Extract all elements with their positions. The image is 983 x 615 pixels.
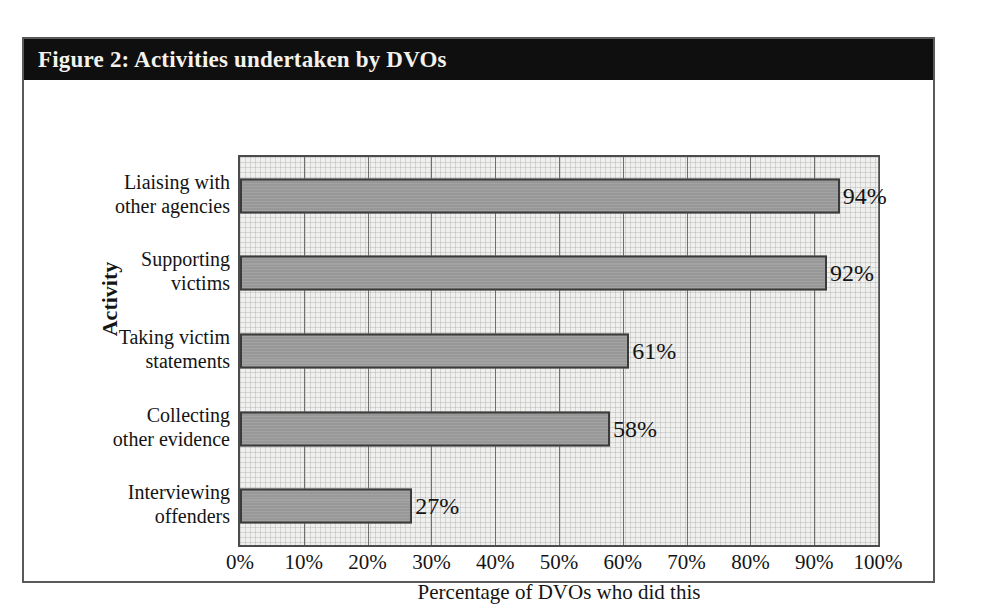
bar[interactable] bbox=[240, 489, 412, 524]
category-label-line: Interviewing bbox=[30, 480, 230, 504]
bar-slot: 92% bbox=[240, 235, 878, 313]
x-tick-label: 20% bbox=[348, 550, 387, 575]
bar-slot: 61% bbox=[240, 312, 878, 390]
x-tick-label: 100% bbox=[854, 550, 903, 575]
bar-value-label: 27% bbox=[412, 493, 459, 520]
figure-title-bar: Figure 2: Activities undertaken by DVOs bbox=[24, 39, 933, 80]
category-label: Taking victimstatements bbox=[30, 325, 230, 373]
x-tick-label: 0% bbox=[226, 550, 254, 575]
bar-value-label: 58% bbox=[610, 415, 657, 442]
figure-title: Figure 2: Activities undertaken by DVOs bbox=[38, 47, 447, 73]
gridline-100% bbox=[878, 157, 879, 545]
bar-slot: 27% bbox=[240, 467, 878, 545]
chart-body: Activity Liaising withother agenciesSupp… bbox=[24, 80, 933, 585]
x-tick-label: 70% bbox=[667, 550, 706, 575]
bar[interactable] bbox=[240, 178, 840, 213]
category-label-column: Liaising withother agenciesSupportingvic… bbox=[24, 155, 230, 547]
category-label-line: Supporting bbox=[30, 247, 230, 271]
category-label-line: statements bbox=[30, 349, 230, 373]
category-label-line: offenders bbox=[30, 504, 230, 528]
bar-slot: 94% bbox=[240, 157, 878, 235]
bar-value-label: 61% bbox=[629, 337, 676, 364]
bar[interactable] bbox=[240, 256, 827, 291]
x-tick-label: 30% bbox=[412, 550, 451, 575]
category-label: Supportingvictims bbox=[30, 247, 230, 295]
bar-value-label: 94% bbox=[840, 182, 887, 209]
x-axis-title: Percentage of DVOs who did this bbox=[238, 580, 880, 605]
category-label-line: Taking victim bbox=[30, 325, 230, 349]
x-tick-label: 80% bbox=[731, 550, 770, 575]
bar[interactable] bbox=[240, 333, 629, 368]
x-tick-label: 50% bbox=[540, 550, 579, 575]
bar-slot: 58% bbox=[240, 390, 878, 468]
category-label: Liaising withother agencies bbox=[30, 170, 230, 218]
category-label-line: victims bbox=[30, 271, 230, 295]
x-tick-label: 90% bbox=[795, 550, 834, 575]
bar[interactable] bbox=[240, 411, 610, 446]
category-label: Collectingother evidence bbox=[30, 403, 230, 451]
figure-frame: Figure 2: Activities undertaken by DVOs … bbox=[22, 37, 935, 583]
category-label-line: Collecting bbox=[30, 403, 230, 427]
x-tick-label: 10% bbox=[285, 550, 324, 575]
category-label: Interviewingoffenders bbox=[30, 480, 230, 528]
category-label-line: other agencies bbox=[30, 194, 230, 218]
x-axis-tick-labels: 0%10%20%30%40%50%60%70%80%90%100% bbox=[238, 550, 880, 580]
bar-value-label: 92% bbox=[827, 260, 874, 287]
x-tick-label: 60% bbox=[604, 550, 643, 575]
x-tick-label: 40% bbox=[476, 550, 515, 575]
category-label-line: Liaising with bbox=[30, 170, 230, 194]
category-label-line: other evidence bbox=[30, 427, 230, 451]
plot-area: 94%92%61%58%27% bbox=[238, 155, 880, 547]
